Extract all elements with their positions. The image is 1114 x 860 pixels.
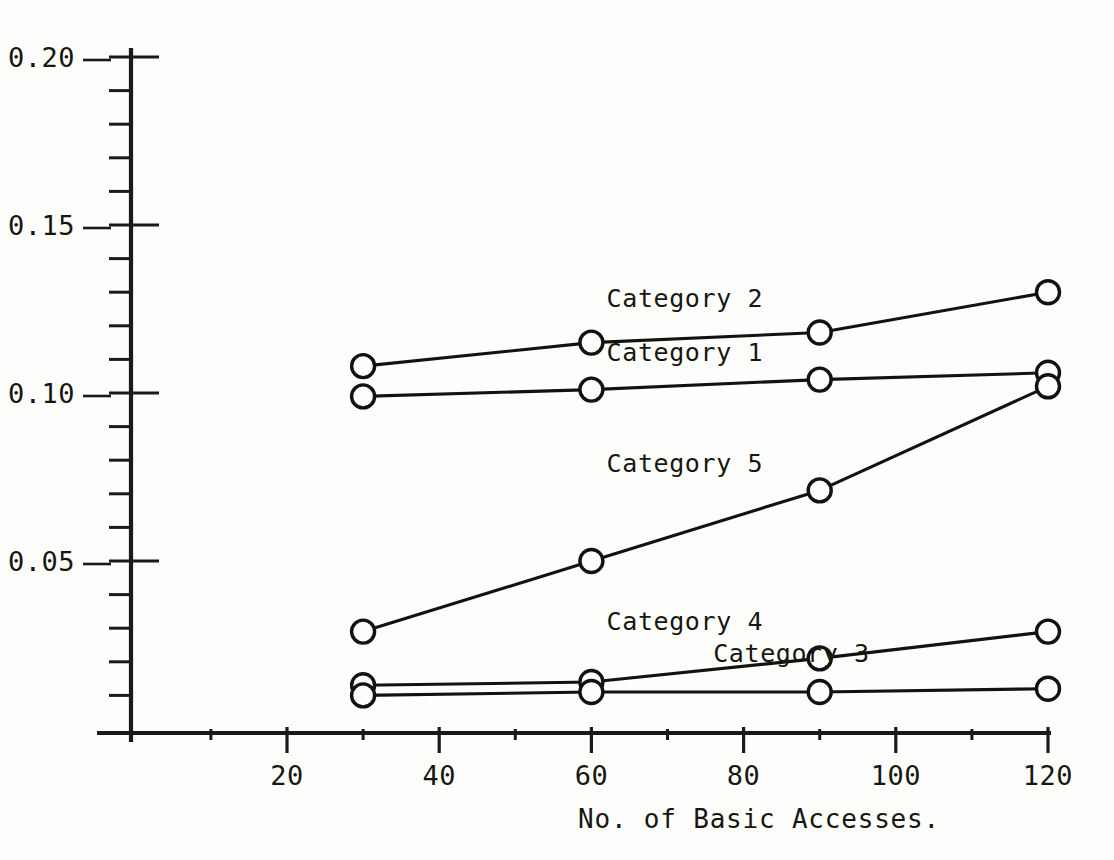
x-tick-label: 100 bbox=[871, 760, 921, 791]
series-marker-open-circle bbox=[352, 355, 375, 378]
series-marker-open-circle bbox=[352, 620, 375, 643]
x-tick-label: 20 bbox=[270, 760, 304, 791]
y-axis-tick-labels: 0.050.100.150.20 bbox=[8, 42, 75, 577]
series-line bbox=[363, 373, 1048, 397]
y-tick-label: 0.10 bbox=[8, 378, 75, 409]
series-marker-open-circle bbox=[352, 385, 375, 408]
series-inline-label: Category 1 bbox=[607, 338, 764, 367]
series-marker-open-circle bbox=[1037, 677, 1060, 700]
x-axis-tick-labels: 20406080100120 bbox=[270, 760, 1073, 791]
x-tick-label: 40 bbox=[422, 760, 456, 791]
series-marker-open-circle bbox=[1037, 281, 1060, 304]
x-tick-label: 120 bbox=[1023, 760, 1073, 791]
x-tick-label: 80 bbox=[727, 760, 761, 791]
series-line bbox=[363, 632, 1048, 686]
series-marker-open-circle bbox=[808, 681, 831, 704]
series-inline-label: Category 3 bbox=[713, 639, 870, 668]
y-axis-major-ticks bbox=[83, 57, 159, 564]
series-inline-label: Category 5 bbox=[607, 449, 764, 478]
series-inline-label: Category 4 bbox=[607, 607, 764, 636]
series-line bbox=[363, 689, 1048, 696]
line-chart-canvas: 0.050.100.150.20 20406080100120 Category… bbox=[0, 0, 1114, 860]
series-marker-open-circle bbox=[1037, 620, 1060, 643]
series-inline-labels: Category 2Category 1Category 5Category 4… bbox=[607, 284, 870, 668]
y-tick-label: 0.15 bbox=[8, 210, 75, 241]
chart-figure: 0.050.100.150.20 20406080100120 Category… bbox=[0, 0, 1114, 860]
series-marker-open-circle bbox=[580, 331, 603, 354]
series-marker-open-circle bbox=[580, 681, 603, 704]
series-marker-open-circle bbox=[1037, 375, 1060, 398]
series-inline-label: Category 2 bbox=[607, 284, 764, 313]
series-marker-open-circle bbox=[808, 368, 831, 391]
x-tick-label: 60 bbox=[575, 760, 609, 791]
x-axis-title: No. of Basic Accesses. bbox=[578, 804, 940, 834]
axes-group bbox=[99, 50, 1049, 740]
series-marker-open-circle bbox=[352, 684, 375, 707]
series-marker-open-circle bbox=[808, 479, 831, 502]
y-tick-label: 0.05 bbox=[8, 546, 75, 577]
series-marker-open-circle bbox=[808, 321, 831, 344]
series-marker-open-circle bbox=[580, 550, 603, 573]
series-marker-open-circle bbox=[580, 378, 603, 401]
y-tick-label: 0.20 bbox=[8, 42, 75, 73]
series-line bbox=[363, 386, 1048, 631]
